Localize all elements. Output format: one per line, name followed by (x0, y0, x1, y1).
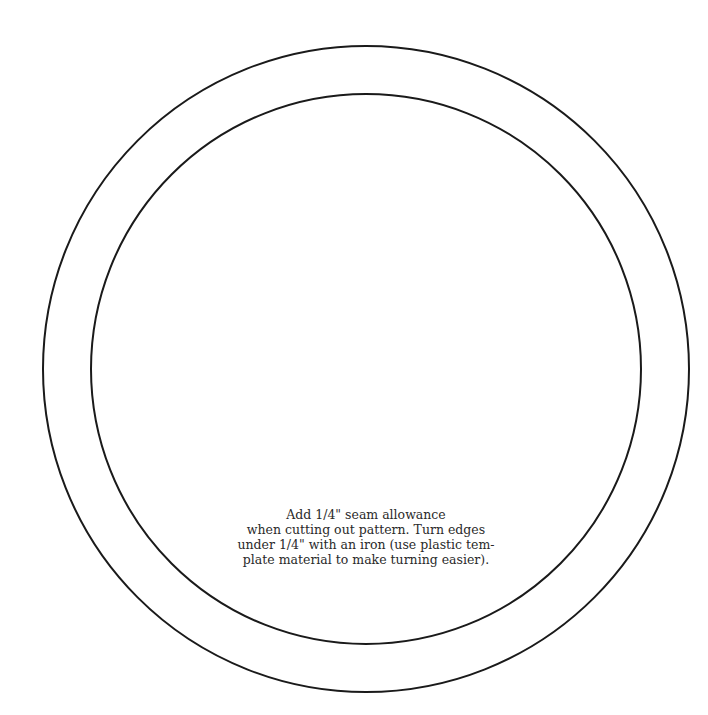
instruction-line: Add 1/4" seam allowance (216, 507, 516, 522)
instruction-line: plate material to make turning easier). (216, 552, 516, 567)
instruction-line: when cutting out pattern. Turn edges (216, 522, 516, 537)
outer-circle-cutting-line (43, 46, 689, 692)
circle-pattern-template (0, 0, 708, 715)
instruction-line: under 1/4" with an iron (use plastic tem… (216, 537, 516, 552)
seam-allowance-instructions: Add 1/4" seam allowance when cutting out… (216, 507, 516, 567)
pattern-page: Add 1/4" seam allowance when cutting out… (0, 0, 708, 715)
